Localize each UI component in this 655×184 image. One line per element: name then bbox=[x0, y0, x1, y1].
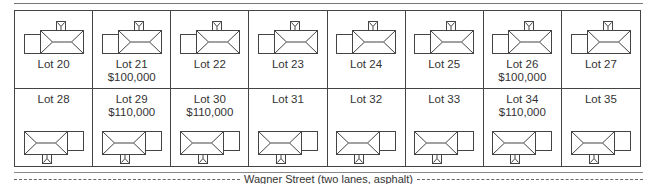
lot-info: Lot 21$100,000 bbox=[93, 58, 170, 84]
lot-label: Lot 27 bbox=[585, 58, 617, 70]
house-plan-icon bbox=[257, 19, 319, 55]
lot-label: Lot 30 bbox=[194, 93, 226, 105]
lot-label: Lot 24 bbox=[350, 58, 382, 70]
house-plan-icon bbox=[570, 19, 632, 55]
house-plan-icon bbox=[491, 130, 553, 166]
lot-cell[interactable]: Lot 30$110,000 bbox=[171, 89, 249, 167]
lot-label: Lot 29 bbox=[116, 93, 148, 105]
house-plan-icon bbox=[413, 130, 475, 166]
house-plan-icon bbox=[413, 19, 475, 55]
lot-price: $100,000 bbox=[484, 71, 561, 84]
lot-info: Lot 28 bbox=[15, 93, 92, 106]
lot-info: Lot 32 bbox=[328, 93, 405, 106]
lot-cell[interactable]: Lot 22 bbox=[171, 11, 249, 89]
lot-info: Lot 34$110,000 bbox=[484, 93, 561, 119]
lot-info: Lot 22 bbox=[171, 58, 248, 71]
lot-cell[interactable]: Lot 24 bbox=[328, 11, 406, 89]
lot-price: $110,000 bbox=[93, 106, 170, 119]
street-label: Wagner Street (two lanes, asphalt) bbox=[240, 174, 417, 184]
lot-info: Lot 25 bbox=[406, 58, 483, 71]
house-plan-icon bbox=[491, 19, 553, 55]
house-plan-icon bbox=[23, 19, 85, 55]
lot-cell[interactable]: Lot 29$110,000 bbox=[93, 89, 171, 167]
lot-cell[interactable]: Lot 35 bbox=[562, 89, 640, 167]
lot-cell[interactable]: Lot 31 bbox=[249, 89, 327, 167]
lot-label: Lot 22 bbox=[194, 58, 226, 70]
lot-label: Lot 21 bbox=[116, 58, 148, 70]
lot-cell[interactable]: Lot 21$100,000 bbox=[93, 11, 171, 89]
lot-label: Lot 23 bbox=[272, 58, 304, 70]
lot-info: Lot 30$110,000 bbox=[171, 93, 248, 119]
lot-cell[interactable]: Lot 34$110,000 bbox=[484, 89, 562, 167]
lot-info: Lot 31 bbox=[249, 93, 326, 106]
lot-grid: Lot 20 Lot 21$100,000 Lot 22 Lot 23 Lot … bbox=[14, 10, 641, 167]
dashed-lane-line bbox=[417, 179, 643, 180]
lot-cell[interactable]: Lot 26$100,000 bbox=[484, 11, 562, 89]
lot-info: Lot 20 bbox=[15, 58, 92, 71]
street-centerline: Wagner Street (two lanes, asphalt) bbox=[14, 174, 643, 184]
house-plan-icon bbox=[179, 19, 241, 55]
lot-label: Lot 34 bbox=[506, 93, 538, 105]
lot-cell[interactable]: Lot 28 bbox=[15, 89, 93, 167]
lot-info: Lot 35 bbox=[562, 93, 640, 106]
lot-info: Lot 33 bbox=[406, 93, 483, 106]
top-boundary-line bbox=[14, 3, 643, 4]
lot-cell[interactable]: Lot 33 bbox=[406, 89, 484, 167]
house-plan-icon bbox=[23, 130, 85, 166]
house-plan-icon bbox=[101, 19, 163, 55]
lot-label: Lot 25 bbox=[428, 58, 460, 70]
lot-label: Lot 26 bbox=[506, 58, 538, 70]
lot-cell[interactable]: Lot 32 bbox=[328, 89, 406, 167]
house-plan-icon bbox=[335, 130, 397, 166]
lot-label: Lot 35 bbox=[585, 93, 617, 105]
lot-cell[interactable]: Lot 20 bbox=[15, 11, 93, 89]
lot-label: Lot 31 bbox=[272, 93, 304, 105]
dashed-lane-line bbox=[14, 179, 240, 180]
house-plan-icon bbox=[257, 130, 319, 166]
lot-price: $100,000 bbox=[93, 71, 170, 84]
lot-label: Lot 20 bbox=[38, 58, 70, 70]
house-plan-icon bbox=[335, 19, 397, 55]
lot-label: Lot 33 bbox=[428, 93, 460, 105]
lot-info: Lot 29$110,000 bbox=[93, 93, 170, 119]
lot-info: Lot 27 bbox=[562, 58, 640, 71]
lot-info: Lot 23 bbox=[249, 58, 326, 71]
house-plan-icon bbox=[101, 130, 163, 166]
lot-price: $110,000 bbox=[484, 106, 561, 119]
lot-cell[interactable]: Lot 27 bbox=[562, 11, 640, 89]
house-plan-icon bbox=[179, 130, 241, 166]
lot-price: $110,000 bbox=[171, 106, 248, 119]
lot-info: Lot 26$100,000 bbox=[484, 58, 561, 84]
lot-cell[interactable]: Lot 23 bbox=[249, 11, 327, 89]
house-plan-icon bbox=[570, 130, 632, 166]
lot-cell[interactable]: Lot 25 bbox=[406, 11, 484, 89]
lot-label: Lot 32 bbox=[350, 93, 382, 105]
lot-info: Lot 24 bbox=[328, 58, 405, 71]
lot-label: Lot 28 bbox=[38, 93, 70, 105]
